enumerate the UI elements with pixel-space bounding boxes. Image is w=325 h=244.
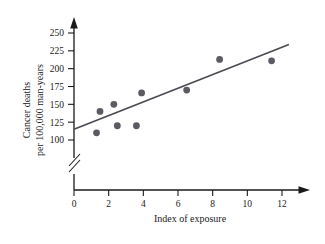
scatter-plot-figure: 100125150175200225250 024681012 Index of… [0,0,325,244]
data-point [133,122,140,129]
data-point [268,57,275,64]
y-axis-title-line1: Cancer deaths [21,82,32,138]
y-axis-arrow-icon [70,17,78,29]
x-tick-label: 2 [106,199,111,209]
x-axis-arrow-icon [299,186,311,194]
x-axis-group [74,186,310,194]
y-axis-group [69,17,80,190]
regression-line [74,44,289,129]
x-tick-label: 12 [277,199,287,209]
data-point [138,90,145,97]
y-tick-label: 225 [50,46,65,56]
y-tick-label: 250 [50,28,65,38]
x-axis-title: Index of exposure [154,213,227,224]
y-tick-label: 200 [50,64,65,74]
y-axis-title-line2: per 100,000 man-years [34,64,45,156]
data-point [93,129,100,136]
x-tick-label: 8 [210,199,215,209]
x-tick-label: 6 [176,199,181,209]
x-tick-label: 4 [141,199,146,209]
y-tick-label: 175 [50,82,65,92]
y-tick-label: 125 [50,118,65,128]
data-point [110,101,117,108]
data-point [216,56,223,63]
data-point [114,122,121,129]
data-points-group [93,56,275,136]
data-point [183,87,190,94]
data-point [97,108,104,115]
y-tick-label: 100 [50,135,65,145]
y-tick-label: 150 [50,100,65,110]
x-tick-label: 10 [243,199,253,209]
x-tick-group: 024681012 [72,190,287,209]
x-tick-label: 0 [72,199,77,209]
y-tick-group: 100125150175200225250 [50,28,74,145]
plot-canvas: 100125150175200225250 024681012 Index of… [0,0,325,244]
